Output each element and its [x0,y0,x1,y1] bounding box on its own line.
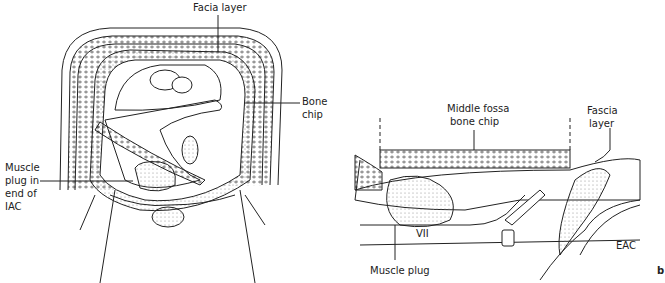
label-muscle-plug: Muscle plug [370,265,430,277]
label-muscle-plug-line3: end of [5,188,37,200]
label-middle-fossa-line2: bone chip [450,116,499,128]
label-fascia-line1: Fascia [587,105,618,117]
label-middle-fossa-line1: Middle fossa [447,103,509,115]
label-muscle-plug-line1: Muscle [5,162,40,174]
label-bone-chip-line1: Bone [302,96,327,108]
panel-letter-b: b [657,265,664,277]
label-vii: VII [416,228,429,240]
label-bone-chip-line2: chip [302,109,323,121]
figure-b-drawing [355,118,640,280]
label-muscle-plug-line4: IAC [5,201,22,213]
label-facia-layer: Facia layer [193,2,247,14]
label-muscle-plug-line2: plug in [5,175,39,187]
anatomy-illustration [0,0,665,283]
label-fascia-line2: layer [589,118,614,130]
label-eac: EAC [616,240,636,252]
figure-a-drawing [40,15,300,283]
